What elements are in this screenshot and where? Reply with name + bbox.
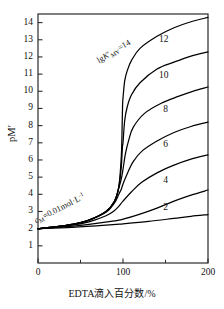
x-tick-label: 200 [191,268,224,278]
y-tick-label: 9 [11,103,33,113]
x-tick-label: 100 [106,268,140,278]
y-tick-label: 1 [11,241,33,251]
series-label-4: 4 [156,176,176,186]
y-tick-label: 12 [11,52,33,62]
series-label-2: 2 [156,203,176,213]
x-axis-title: EDTA滴入百分数/% [0,285,224,300]
y-tick-label: 14 [11,18,33,28]
series-label-6: 6 [156,140,176,150]
y-tick-label: 3 [11,206,33,216]
y-tick-label: 5 [11,172,33,182]
y-tick-label: 11 [11,69,33,79]
series-label-10: 10 [154,71,174,81]
y-tick-label: 6 [11,155,33,165]
series-label-8: 8 [156,105,176,115]
y-tick-label: 10 [11,86,33,96]
y-tick-label: 2 [11,224,33,234]
titration-curve-figure: 1234567891011121314 0100200 12108642 lgK… [0,0,224,309]
y-axis-title: pM′ [6,114,17,154]
x-tick-label: 0 [21,268,55,278]
series-label-12: 12 [154,35,174,45]
y-tick-label: 4 [11,189,33,199]
y-tick-label: 13 [11,35,33,45]
